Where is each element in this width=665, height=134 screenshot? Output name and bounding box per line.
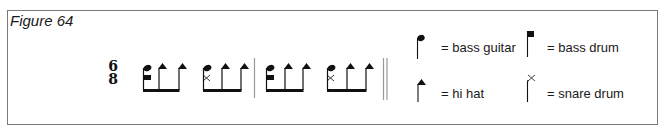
legend-snare-drum-symbol <box>528 75 536 102</box>
beam <box>266 89 304 92</box>
legend-bass-guitar-symbol <box>416 34 425 59</box>
note-group-snare <box>327 63 374 92</box>
bass-drum-notehead-icon <box>266 75 274 80</box>
legend-hi-hat-symbol <box>417 79 426 102</box>
legend-bass-drum-symbol <box>527 31 534 57</box>
legend-snare-drum-label: = snare drum <box>547 86 624 101</box>
legend-bass-guitar-label: = bass guitar <box>441 40 516 55</box>
double-barline <box>384 58 388 100</box>
note-group-snare <box>203 63 249 92</box>
beam <box>203 89 242 92</box>
legend-hi-hat-label: = hi hat <box>441 86 484 101</box>
rhythm-notation <box>0 0 665 134</box>
x-notehead-icon <box>528 75 535 81</box>
bass-drum-notehead-icon <box>143 75 151 80</box>
note-group-bassdrum <box>143 63 187 92</box>
beam <box>143 89 180 92</box>
note-group-bassdrum <box>266 63 311 92</box>
legend-bass-drum-label: = bass drum <box>547 40 619 55</box>
beam <box>327 89 367 92</box>
